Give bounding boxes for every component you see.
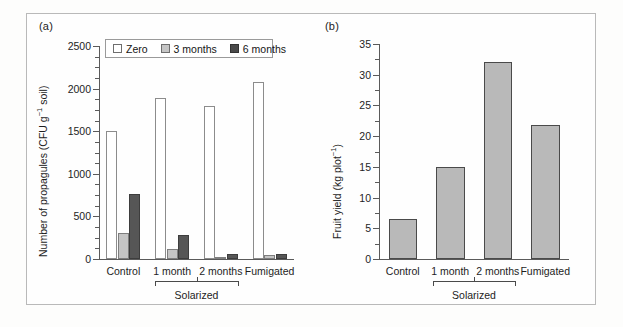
bar-control-6-months[interactable] [129, 194, 140, 259]
figure-frame: (a) Number of propagules (CFU g−1 soil) … [26, 13, 596, 305]
y-axis-tick-label: 1500 [53, 125, 91, 137]
y-axis-minor-tick [375, 182, 379, 183]
bracket-left-tick [155, 281, 156, 286]
legend-item-3-months: 3 months [161, 43, 217, 55]
y-axis-tick-label: 2000 [53, 83, 91, 95]
bar-1-month-6-months[interactable] [178, 235, 189, 259]
x-axis-line [379, 259, 569, 260]
bar-fumigated-3-months[interactable] [264, 255, 275, 259]
y-axis-minor-tick [95, 195, 99, 196]
bracket-right-tick [515, 281, 516, 286]
y-axis-minor-tick [375, 59, 379, 60]
bar-fumigated-zero[interactable] [253, 82, 264, 259]
y-axis-minor-tick [95, 206, 99, 207]
y-axis-tick-label: 0 [333, 253, 371, 265]
bar-1-month-3-months[interactable] [167, 249, 178, 259]
legend-item-6-months: 6 months [230, 43, 286, 55]
y-axis-tick-label: 20 [333, 130, 371, 142]
legend-swatch-zero [113, 44, 122, 53]
y-axis-minor-tick [95, 57, 99, 58]
y-axis-major-tick [93, 174, 99, 175]
bracket-center-tick [474, 277, 475, 282]
y-axis-tick-label: 10 [333, 192, 371, 204]
y-axis-tick-label: 30 [333, 69, 371, 81]
y-axis-tick-label: 5 [333, 222, 371, 234]
y-axis-tick-label: 500 [53, 210, 91, 222]
y-axis-minor-tick [95, 121, 99, 122]
y-axis-minor-tick [95, 227, 99, 228]
bar-2-months-zero[interactable] [204, 106, 215, 259]
y-axis-major-tick [373, 75, 379, 76]
y-axis-tick-label: 2500 [53, 40, 91, 52]
y-axis-line [379, 44, 380, 259]
x-axis-category-label: Control [106, 265, 140, 277]
y-axis-major-tick [93, 259, 99, 260]
y-axis-minor-tick [95, 248, 99, 249]
y-axis-tick-label: 1000 [53, 168, 91, 180]
legend-swatch-m3 [161, 44, 170, 53]
x-axis-category-label: Fumigated [520, 265, 570, 277]
y-axis-major-tick [373, 136, 379, 137]
bar-1-month[interactable] [436, 167, 465, 259]
panel-a-plot-area: 05001000150020002500Control1 month2 mont… [27, 14, 317, 306]
y-axis-major-tick [373, 105, 379, 106]
y-axis-major-tick [373, 228, 379, 229]
y-axis-minor-tick [95, 67, 99, 68]
legend-label: Zero [126, 43, 148, 55]
y-axis-major-tick [93, 46, 99, 47]
bar-1-month-zero[interactable] [155, 98, 166, 259]
bar-2-months-6-months[interactable] [227, 254, 238, 259]
x-axis-category-label: 1 month [153, 265, 191, 277]
y-axis-minor-tick [95, 142, 99, 143]
y-axis-tick-label: 35 [333, 38, 371, 50]
y-axis-tick-label: 15 [333, 161, 371, 173]
legend-item-zero: Zero [113, 43, 148, 55]
y-axis-major-tick [373, 167, 379, 168]
y-axis-minor-tick [95, 153, 99, 154]
x-axis-category-label: Control [386, 265, 420, 277]
x-axis-category-label: 2 months [476, 265, 519, 277]
y-axis-major-tick [93, 131, 99, 132]
bar-control-3-months[interactable] [118, 233, 129, 259]
y-axis-tick-label: 0 [53, 253, 91, 265]
solarized-group-label: Solarized [175, 289, 219, 301]
y-axis-minor-tick [95, 184, 99, 185]
legend-swatch-m6 [230, 44, 239, 53]
y-axis-minor-tick [375, 121, 379, 122]
y-axis-minor-tick [95, 163, 99, 164]
bar-fumigated-6-months[interactable] [276, 254, 287, 259]
y-axis-tick-label: 25 [333, 99, 371, 111]
y-axis-major-tick [93, 216, 99, 217]
chart-legend: Zero3 months6 months [105, 39, 273, 58]
x-axis-category-label: Fumigated [245, 265, 295, 277]
bar-control-zero[interactable] [106, 131, 117, 259]
legend-label: 3 months [174, 43, 217, 55]
x-axis-category-label: 1 month [431, 265, 469, 277]
y-axis-major-tick [373, 198, 379, 199]
x-axis-category-label: 2 months [199, 265, 242, 277]
y-axis-minor-tick [95, 238, 99, 239]
panel-b: (b) Fruit yield (kg plot−1) 051015202530… [317, 14, 597, 304]
bar-control[interactable] [389, 219, 418, 259]
y-axis-major-tick [93, 89, 99, 90]
bracket-right-tick [238, 281, 239, 286]
y-axis-minor-tick [95, 110, 99, 111]
y-axis-line [99, 46, 100, 259]
bracket-left-tick [433, 281, 434, 286]
bracket-center-tick [197, 277, 198, 282]
x-axis-line [99, 259, 294, 260]
bar-fumigated[interactable] [531, 125, 560, 259]
bar-2-months[interactable] [484, 62, 513, 259]
y-axis-major-tick [373, 44, 379, 45]
y-axis-minor-tick [95, 78, 99, 79]
legend-label: 6 months [243, 43, 286, 55]
y-axis-minor-tick [375, 152, 379, 153]
y-axis-minor-tick [375, 90, 379, 91]
panel-a: (a) Number of propagules (CFU g−1 soil) … [27, 14, 317, 304]
bar-2-months-3-months[interactable] [215, 257, 226, 259]
y-axis-major-tick [373, 259, 379, 260]
y-axis-minor-tick [375, 244, 379, 245]
solarized-group-label: Solarized [452, 289, 496, 301]
y-axis-minor-tick [375, 213, 379, 214]
panel-b-plot-area: 05101520253035Control1 month2 monthsFumi… [317, 14, 597, 306]
